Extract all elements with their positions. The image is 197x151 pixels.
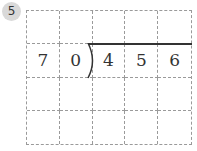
grid-cell[interactable]: [93, 111, 126, 144]
grid-cell[interactable]: [60, 11, 93, 44]
grid-cell[interactable]: [158, 11, 191, 44]
dividend-digit: 6: [158, 44, 191, 77]
grid-cell[interactable]: [158, 111, 191, 144]
division-vinculum: [88, 43, 192, 45]
dividend-digit: 5: [125, 44, 158, 77]
grid-cell[interactable]: [27, 78, 60, 111]
grid-cell[interactable]: [93, 78, 126, 111]
division-bracket-icon: [86, 43, 96, 79]
grid-cell[interactable]: [125, 11, 158, 44]
dividend-digit: 4: [93, 44, 126, 77]
grid-cell[interactable]: [125, 111, 158, 144]
grid-cell[interactable]: [93, 11, 126, 44]
grid-cell[interactable]: [27, 111, 60, 144]
divisor-digit: 7: [27, 44, 60, 77]
grid-cell[interactable]: [60, 111, 93, 144]
grid-cell[interactable]: [60, 78, 93, 111]
grid-cell[interactable]: [158, 78, 191, 111]
long-division-grid: 7 0 4 5 6: [26, 10, 192, 145]
grid-cell[interactable]: [27, 11, 60, 44]
grid-cell[interactable]: [125, 78, 158, 111]
problem-number-badge: 5: [2, 2, 21, 21]
